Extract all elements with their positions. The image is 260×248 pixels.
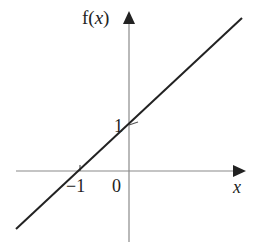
y-axis-label: f(x) xyxy=(82,7,109,29)
origin-label: 0 xyxy=(112,176,121,196)
y-tick-label-1: 1 xyxy=(114,116,123,136)
x-axis-arrow-icon xyxy=(233,165,246,177)
x-tick-label-neg1: −1 xyxy=(66,176,85,196)
y-axis-arrow-icon xyxy=(123,11,135,24)
x-axis-label: x xyxy=(232,177,241,197)
function-graph: f(x) x 1 −1 0 xyxy=(0,0,260,248)
